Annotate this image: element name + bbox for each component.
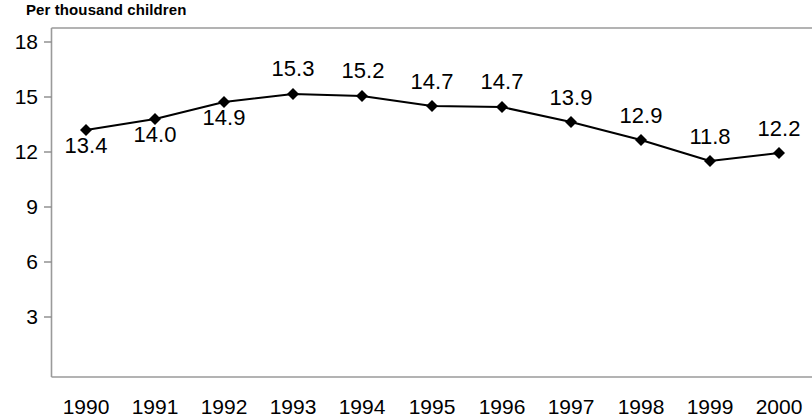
x-axis-label-1991: 1991: [120, 396, 190, 417]
y-axis-label-9: 9: [4, 196, 38, 217]
y-axis-label-12: 12: [4, 141, 38, 162]
y-axis-label-18: 18: [4, 31, 38, 52]
value-label-1994: 15.2: [331, 60, 395, 82]
y-axis-label-3: 3: [4, 306, 38, 327]
value-label-1991: 14.0: [123, 124, 187, 146]
data-point-2000: [773, 147, 785, 159]
y-axis-ticks: [44, 42, 52, 317]
value-label-1995: 14.7: [400, 71, 464, 93]
data-point-1993: [287, 88, 299, 100]
value-label-1992: 14.9: [192, 107, 256, 129]
y-axis-label-15: 15: [4, 86, 38, 107]
value-label-1999: 11.8: [678, 126, 742, 148]
value-label-1990: 13.4: [54, 135, 118, 157]
data-point-1997: [565, 116, 577, 128]
value-label-1993: 15.3: [261, 58, 325, 80]
data-point-1996: [496, 101, 508, 113]
x-axis-label-1998: 1998: [606, 396, 676, 417]
value-label-1997: 13.9: [539, 87, 603, 109]
data-point-1999: [704, 155, 716, 167]
y-axis-label-6: 6: [4, 251, 38, 272]
x-axis-label-1994: 1994: [327, 396, 397, 417]
value-label-1996: 14.7: [470, 71, 534, 93]
x-axis-label-1995: 1995: [397, 396, 467, 417]
data-point-1995: [426, 100, 438, 112]
x-axis-label-1993: 1993: [258, 396, 328, 417]
x-axis-label-1997: 1997: [536, 396, 606, 417]
x-axis-label-2000: 2000: [744, 396, 812, 417]
data-point-1998: [635, 134, 647, 146]
x-axis-label-1992: 1992: [189, 396, 259, 417]
x-axis-label-1999: 1999: [675, 396, 745, 417]
value-label-1998: 12.9: [609, 105, 673, 127]
x-axis-label-1990: 1990: [51, 396, 121, 417]
x-axis-label-1996: 1996: [467, 396, 537, 417]
value-label-2000: 12.2: [747, 118, 811, 140]
data-point-1994: [356, 90, 368, 102]
